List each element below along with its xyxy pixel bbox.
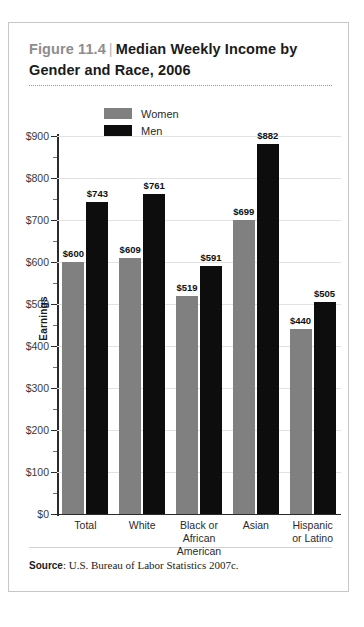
y-axis-minor-tick	[53, 451, 57, 452]
y-axis-tick	[51, 514, 57, 515]
bar-value-label: $743	[87, 188, 108, 199]
y-axis-minor-tick	[53, 199, 57, 200]
bar-men	[143, 194, 165, 514]
y-axis-tick	[51, 220, 57, 221]
bar-value-label: $519	[176, 282, 197, 293]
page-title: Figure 11.4|Median Weekly Income by Gend…	[29, 39, 334, 81]
gridline	[57, 136, 341, 137]
y-axis-tick-label: $0	[9, 508, 49, 520]
x-axis-category-line: African	[163, 532, 235, 545]
y-axis-minor-tick	[53, 241, 57, 242]
x-axis-category-line: American	[163, 545, 235, 558]
y-axis-tick-label: $600	[9, 256, 49, 268]
y-axis-tick-label: $300	[9, 382, 49, 394]
y-axis-tick	[51, 304, 57, 305]
y-axis-tick	[51, 388, 57, 389]
x-axis-baseline	[57, 514, 341, 515]
bar-value-label: $761	[144, 180, 165, 191]
plot-area: $600$743$609$761$519$591$699$882$440$505	[57, 136, 341, 514]
y-axis-minor-tick	[53, 157, 57, 158]
gridline	[57, 178, 341, 179]
y-axis-tick-label: $700	[9, 214, 49, 226]
legend-label: Men	[141, 125, 162, 137]
y-axis-tick-label: $800	[9, 172, 49, 184]
bar-value-label: $882	[257, 130, 278, 141]
bar-women	[290, 329, 312, 514]
legend-label: Women	[141, 108, 179, 120]
title-divider	[29, 85, 332, 86]
bar-women	[233, 220, 255, 514]
y-axis-tick	[51, 262, 57, 263]
bar-women	[176, 296, 198, 514]
y-axis-tick-label: $900	[9, 130, 49, 142]
source-label: Source	[29, 560, 63, 571]
x-axis-category-label: Hispanicor Latino	[277, 519, 349, 545]
title-separator: |	[106, 41, 116, 57]
legend-swatch-women	[104, 108, 132, 119]
source-text: U.S. Bureau of Labor Statistics 2007c.	[69, 559, 239, 571]
y-axis-minor-tick	[53, 283, 57, 284]
y-axis-minor-tick	[53, 367, 57, 368]
legend-item-men: Men	[104, 123, 179, 138]
y-axis-tick	[51, 430, 57, 431]
y-axis-tick	[51, 472, 57, 473]
y-axis-minor-tick	[53, 409, 57, 410]
y-axis-minor-tick	[53, 493, 57, 494]
x-axis-category-line: Hispanic	[277, 519, 349, 532]
y-axis-tick	[51, 346, 57, 347]
y-axis-tick	[51, 178, 57, 179]
bar-men	[200, 266, 222, 514]
y-axis-tick	[51, 136, 57, 137]
bar-women	[62, 262, 84, 514]
bar-value-label: $591	[200, 252, 221, 263]
bar-value-label: $699	[233, 206, 254, 217]
y-axis-tick-label: $100	[9, 466, 49, 478]
bar-value-label: $600	[63, 248, 84, 259]
bar-men	[314, 302, 336, 514]
source-note: Source: U.S. Bureau of Labor Statistics …	[29, 559, 239, 571]
chart-legend: WomenMen	[104, 106, 179, 140]
source-colon: :	[63, 559, 66, 571]
y-axis-minor-tick	[53, 325, 57, 326]
legend-swatch-men	[104, 125, 132, 136]
x-axis-category-line: or Latino	[277, 532, 349, 545]
bar-men	[257, 144, 279, 514]
bar-men	[86, 202, 108, 514]
legend-item-women: Women	[104, 106, 179, 121]
bar-women	[119, 258, 141, 514]
y-axis-title: Earnings	[38, 279, 49, 359]
y-axis-tick-label: $200	[9, 424, 49, 436]
bar-value-label: $505	[314, 288, 335, 299]
bar-value-label: $609	[120, 244, 141, 255]
figure-container: Figure 11.4|Median Weekly Income by Gend…	[8, 22, 349, 592]
bar-value-label: $440	[290, 315, 311, 326]
